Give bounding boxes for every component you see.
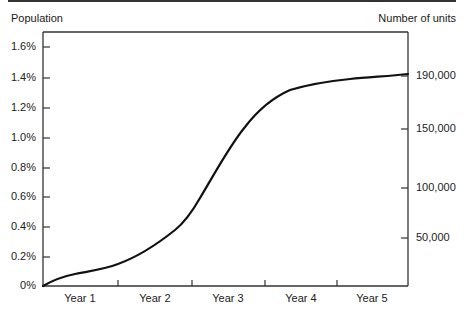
left-tick-label: 0.2% (0, 250, 36, 262)
plot-frame (43, 32, 408, 286)
x-tick-label: Year 2 (120, 292, 190, 304)
left-tick-label: 0.8% (0, 161, 36, 173)
right-tick-label: 150,000 (416, 122, 456, 134)
x-axis-ticks (118, 280, 337, 286)
population-curve (43, 74, 408, 286)
left-tick-label: 0.6% (0, 190, 36, 202)
chart-plot (0, 0, 464, 315)
x-tick-label: Year 5 (337, 292, 407, 304)
right-tick-label: 190,000 (416, 69, 456, 81)
left-tick-label: 1.6% (0, 40, 36, 52)
x-tick-label: Year 1 (45, 292, 115, 304)
right-axis-ticks (401, 76, 408, 238)
right-tick-label: 100,000 (416, 181, 456, 193)
left-tick-label: 0.4% (0, 220, 36, 232)
x-tick-label: Year 3 (193, 292, 263, 304)
left-tick-label: 1.2% (0, 101, 36, 113)
x-tick-label: Year 4 (266, 292, 336, 304)
left-axis-ticks (43, 47, 50, 257)
left-tick-label: 1.4% (0, 71, 36, 83)
left-tick-label: 0% (0, 279, 36, 291)
left-tick-label: 1.0% (0, 131, 36, 143)
right-tick-label: 50,000 (416, 231, 450, 243)
